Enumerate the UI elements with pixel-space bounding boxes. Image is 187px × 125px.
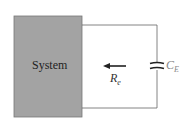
resistance-label: Re (110, 71, 121, 87)
capacitor-icon (150, 63, 164, 69)
circuit-diagram (0, 0, 187, 125)
top-wire (82, 25, 157, 62)
capacitor-subscript: E (174, 65, 179, 74)
arrow-left-icon (103, 63, 126, 69)
capacitor-label: CE (166, 58, 179, 74)
capacitor-symbol: C (166, 58, 174, 72)
resistance-subscript: e (117, 78, 121, 87)
system-label: System (32, 58, 67, 73)
